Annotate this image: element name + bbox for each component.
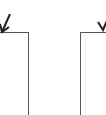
arrow-down-icon [0,14,16,34]
diagram-node-left [0,32,29,115]
diagram-node-right [80,32,106,115]
faint-guide-line [85,36,86,115]
arrow-down-icon [96,18,106,32]
